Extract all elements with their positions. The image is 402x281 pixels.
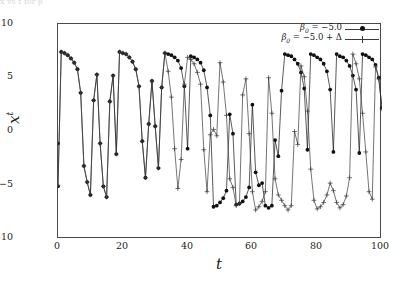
chart-figure: x vs t for β 10 5 0 −5 −10 0 20 40 60 80… [0, 0, 402, 281]
data-point-marker [82, 164, 87, 169]
data-point-marker [260, 181, 264, 185]
filled-circle-icon [360, 26, 365, 31]
data-point-marker [270, 204, 274, 208]
data-point-marker [150, 79, 155, 84]
data-point-marker [244, 195, 248, 199]
y-axis-label: xt [5, 112, 23, 124]
data-point-marker [361, 52, 365, 56]
data-point-marker [212, 205, 216, 209]
data-point-marker [247, 186, 251, 190]
data-point-marker [205, 189, 210, 194]
data-point-marker [218, 60, 223, 65]
data-point-marker [186, 147, 190, 151]
data-point-marker [225, 189, 229, 193]
data-point-marker [260, 199, 265, 204]
data-point-marker [75, 67, 80, 72]
data-point-marker [215, 204, 219, 208]
data-point-marker [133, 67, 138, 72]
data-point-marker [341, 55, 345, 59]
data-point-marker [276, 193, 281, 198]
data-point-marker [146, 122, 151, 127]
data-point-marker [175, 186, 180, 191]
data-point-marker [241, 199, 245, 203]
data-point-marker [114, 152, 119, 157]
data-point-marker [221, 80, 226, 85]
data-point-marker [312, 53, 316, 57]
data-point-marker [218, 201, 222, 205]
data-point-marker [302, 74, 307, 79]
data-point-marker [306, 148, 310, 152]
data-point-marker [319, 58, 323, 62]
data-point-marker [367, 55, 371, 59]
data-point-marker [104, 195, 109, 200]
x-tick-label: 0 [57, 241, 63, 251]
series-line [58, 52, 382, 208]
data-point-marker [208, 132, 213, 137]
data-point-marker [198, 82, 203, 87]
x-tick-label: 60 [251, 241, 263, 251]
data-point-marker [208, 113, 212, 117]
data-point-marker [231, 185, 236, 190]
plot-area [57, 23, 381, 238]
data-point-marker [227, 176, 232, 181]
data-point-marker [94, 72, 99, 77]
data-point-marker [280, 89, 284, 93]
data-point-marker [195, 58, 199, 62]
data-point-marker [78, 90, 83, 95]
data-point-marker [257, 183, 261, 187]
legend-key-plus [345, 34, 379, 44]
data-point-marker [169, 95, 174, 100]
data-point-marker [348, 64, 352, 68]
data-point-marker [266, 75, 271, 80]
data-point-marker [347, 175, 352, 180]
data-point-marker [293, 58, 297, 62]
data-point-marker [367, 189, 372, 194]
data-point-marker [283, 52, 287, 56]
data-point-marker [332, 150, 336, 154]
data-point-marker [312, 198, 317, 203]
data-point-marker [179, 66, 183, 70]
data-point-marker [295, 142, 300, 147]
data-point-marker [308, 167, 313, 172]
data-point-marker [364, 53, 368, 57]
data-point-marker [338, 54, 342, 58]
data-point-marker [179, 157, 184, 162]
data-point-marker [335, 52, 339, 56]
data-point-marker [101, 184, 106, 189]
data-point-marker [263, 204, 267, 208]
data-point-marker [279, 198, 284, 203]
data-point-marker [111, 73, 116, 78]
data-point-marker [292, 129, 297, 134]
data-point-marker [354, 88, 358, 92]
data-point-marker [221, 196, 225, 200]
data-point-marker [331, 188, 336, 193]
series-beta0 [58, 50, 382, 210]
data-point-marker [244, 76, 249, 81]
data-point-marker [195, 70, 200, 75]
series-line [58, 52, 382, 210]
data-point-marker [202, 68, 206, 72]
legend-entry-beta0-delta: β0 = −5.0 + Δ [281, 34, 379, 44]
legend: β0 = −5.0 β0 = −5.0 + Δ [253, 24, 380, 45]
data-point-marker [350, 52, 355, 57]
data-point-marker [143, 175, 148, 180]
data-point-marker [325, 69, 329, 73]
data-point-marker [370, 58, 374, 62]
data-point-marker [370, 197, 375, 202]
data-point-marker [176, 59, 180, 63]
plus-icon [362, 36, 363, 43]
x-tick-label: 80 [316, 241, 328, 251]
data-point-marker [325, 193, 330, 198]
data-point-marker [286, 53, 290, 57]
data-point-marker [269, 111, 274, 116]
data-point-marker [88, 193, 93, 198]
data-point-marker [159, 85, 164, 90]
data-point-marker [344, 59, 348, 63]
data-point-marker [153, 124, 158, 129]
data-point-marker [322, 62, 326, 66]
data-point-marker [276, 154, 280, 158]
data-point-marker [296, 62, 300, 66]
data-point-marker [85, 180, 90, 185]
data-point-marker [247, 131, 252, 136]
x-tick-label: 40 [187, 241, 199, 251]
